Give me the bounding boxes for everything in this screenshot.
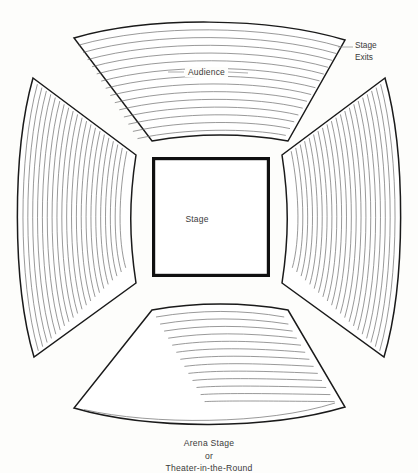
stage-exits-label-line2: Exits (355, 52, 373, 62)
caption-line-3: Theater-in-the-Round (0, 462, 418, 473)
diagram-caption: Arena Stage or Theater-in-the-Round (0, 437, 418, 473)
caption-line-1: Arena Stage (0, 437, 418, 450)
caption-line-2: or (0, 450, 418, 463)
top-seating-outline (74, 22, 345, 141)
top-seating-block (74, 22, 345, 141)
stage-exits-label-line1: Stage (355, 40, 377, 50)
stage-exits-label: Stage Exits (355, 40, 377, 63)
audience-label: Audience (185, 67, 228, 77)
bottom-seating-block (74, 304, 345, 424)
stage-label: Stage (185, 214, 208, 224)
stage-platform (154, 159, 269, 276)
left-seating-block (17, 78, 136, 357)
arena-stage-diagram: Audience Stage Stage Exits Arena Stage o… (0, 0, 418, 473)
